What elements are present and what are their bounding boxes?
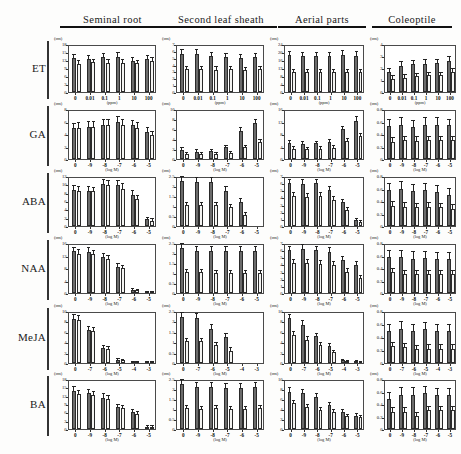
error-bar: [449, 120, 450, 126]
error-bar: [211, 178, 212, 182]
bar-light: [305, 340, 309, 363]
bar-group: [397, 46, 409, 92]
bar-series-layer: [69, 313, 155, 363]
x-tick-label: -6: [436, 162, 440, 168]
bar-light: [391, 346, 394, 363]
error-bar: [356, 262, 357, 265]
bar-group: [192, 178, 207, 226]
chart-panel-naa-aerial-parts: (cm)012345670-9-8-7-6-5(log M): [268, 244, 364, 294]
y-unit-label: (cm): [162, 168, 170, 173]
bar-light: [332, 72, 336, 92]
bar-light: [439, 274, 442, 293]
row-label-ga: GA: [6, 128, 46, 140]
error-bar-cap: [136, 122, 139, 123]
error-bar-cap: [224, 145, 227, 146]
bar-dark: [180, 248, 184, 293]
error-bar: [137, 123, 138, 127]
bar-group: [69, 381, 84, 429]
bar-group: [177, 111, 192, 159]
bar-group: [69, 245, 84, 293]
bar-light: [427, 207, 430, 226]
error-bar-cap: [200, 66, 203, 67]
error-bar: [186, 406, 187, 408]
y-axis: 00.20.40.60.8: [368, 177, 384, 227]
bar-light: [319, 410, 323, 430]
bar-group: [338, 111, 351, 159]
bar-light: [106, 399, 110, 429]
bar-light: [305, 407, 309, 429]
bar-dark: [288, 392, 292, 430]
column-header-3: Aerial parts: [278, 14, 366, 28]
error-bar: [78, 187, 79, 191]
bar-group: [236, 111, 251, 159]
bar-series-layer: [285, 245, 363, 293]
x-tick-label: -4: [240, 366, 244, 372]
bar-group: [385, 46, 397, 92]
error-bar-cap: [146, 361, 149, 362]
bar-dark: [195, 318, 199, 363]
x-tick-label: 10: [131, 95, 136, 101]
error-bar: [260, 140, 261, 142]
bar-dark: [224, 251, 228, 293]
error-bar-cap: [423, 386, 426, 387]
x-tick-label: 0: [289, 229, 292, 235]
bar-light: [121, 63, 125, 92]
error-bar: [452, 407, 453, 411]
bar-light: [292, 335, 296, 363]
error-bar: [201, 67, 202, 70]
bar-light: [332, 148, 336, 159]
error-bar-cap: [387, 324, 390, 325]
error-bar-cap: [229, 66, 232, 67]
bar-light: [391, 412, 394, 430]
error-bar: [230, 67, 231, 70]
error-bar-cap: [451, 204, 454, 205]
bar-group: [325, 245, 338, 293]
y-axis: 0246810: [268, 312, 284, 364]
x-axis: 0-9-8-7-6-5(log M): [384, 294, 456, 306]
error-bar-cap: [288, 314, 291, 315]
error-bar-cap: [210, 382, 213, 383]
error-bar-cap: [210, 324, 213, 325]
error-bar-cap: [355, 51, 358, 52]
error-bar: [93, 392, 94, 395]
x-tick-label: 0: [289, 296, 292, 302]
bar-group: [352, 313, 365, 363]
error-bar-cap: [315, 52, 318, 53]
y-unit-label: (cm): [162, 235, 170, 240]
bar-group: [113, 111, 128, 159]
error-bar: [404, 344, 405, 347]
bar-light: [359, 72, 363, 92]
error-bar-cap: [72, 123, 75, 124]
column-header-rule: [165, 26, 277, 28]
bar-group: [445, 111, 457, 159]
bar-light: [150, 135, 154, 159]
row-label-aba: ABA: [6, 195, 46, 207]
error-bar-cap: [399, 61, 402, 62]
plot-area: [68, 380, 156, 430]
error-bar-cap: [359, 361, 362, 362]
error-bar-cap: [403, 270, 406, 271]
x-tick-label: -4: [342, 366, 346, 372]
bar-dark: [87, 252, 91, 293]
bar-dark: [399, 125, 402, 159]
error-bar: [289, 388, 290, 392]
error-bar-cap: [292, 331, 295, 332]
error-bar: [389, 184, 390, 190]
x-tick-label: -6: [132, 296, 136, 302]
bar-light: [185, 272, 189, 293]
y-axis: 0481216: [52, 244, 68, 294]
error-bar-cap: [332, 261, 335, 262]
bar-light: [345, 416, 349, 429]
error-bar-cap: [180, 49, 183, 50]
error-bar: [293, 147, 294, 148]
error-bar-cap: [328, 52, 331, 53]
error-bar: [449, 325, 450, 331]
chart-panel-ga-seminal-root: (cm)024680-9-8-7-6-5(log M): [52, 110, 156, 160]
bar-group: [352, 178, 365, 226]
bar-light: [391, 79, 394, 92]
error-bar: [333, 351, 334, 353]
y-unit-label: (cm): [162, 303, 170, 308]
x-tick-label: 0: [389, 229, 392, 235]
x-axis: 0-9-8-7-6-5(log M): [176, 294, 264, 306]
bar-light: [91, 395, 95, 429]
